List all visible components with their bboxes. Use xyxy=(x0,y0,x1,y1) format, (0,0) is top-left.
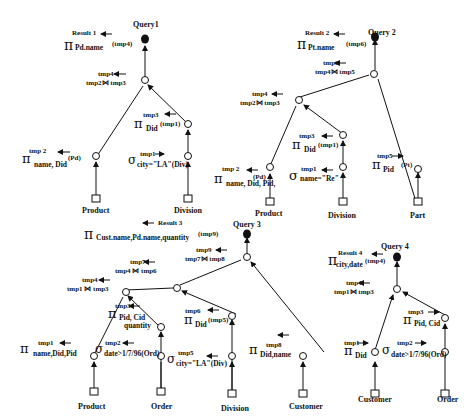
relation-product: Product xyxy=(78,403,105,411)
join-expression: tmp2⋈ tmp3 xyxy=(240,100,280,107)
proj-pid-cid-output: tmp3 xyxy=(115,303,131,310)
join-output: tmp4 xyxy=(252,91,268,98)
relation-order: Order xyxy=(151,403,172,411)
projection-icon: π xyxy=(372,158,381,171)
result-label: Result 3 xyxy=(158,220,182,227)
proj-pid-cid-attrs-2: quantity xyxy=(124,322,151,330)
join-top-expression: tmp7⋈ tmp8 xyxy=(185,256,225,263)
proj-name-output: tmp 2 xyxy=(29,148,46,155)
query-title: Query1 xyxy=(133,21,159,29)
proj-name-input: (Pd) xyxy=(253,174,266,181)
relation-product: Product xyxy=(82,207,109,215)
proj-did-attrs: Did xyxy=(195,321,207,329)
projection-input: (tmp6) xyxy=(346,41,366,48)
proj-pid-attrs: Pid xyxy=(383,166,394,174)
join-mid-expression: tmp4 ⋈ tmp6 xyxy=(115,268,157,275)
select-date-output: tmp2 xyxy=(397,340,413,347)
proj-did-attrs: Did xyxy=(355,352,367,360)
proj-name-attrs: name, Did, Pid, xyxy=(226,180,275,188)
projection-icon: π xyxy=(292,138,301,151)
select-predicate: name="Re" xyxy=(300,175,339,183)
relation-product: Product xyxy=(255,210,282,218)
relation-division: Division xyxy=(221,405,249,413)
proj-name-output: tmp1 xyxy=(38,340,54,347)
projection-attrs: Pd.name xyxy=(75,44,103,52)
join-expression: tmp2⋈ tmp3 xyxy=(86,80,126,87)
join-low-output: tmp4 xyxy=(82,277,98,284)
proj-cust-attrs: Did,name xyxy=(260,351,291,359)
proj-did-attrs: Did xyxy=(146,125,158,133)
proj-did-output: tmp3 xyxy=(143,112,159,119)
projection-icon: π xyxy=(108,307,117,320)
join-top-expression: tmp4⋈ tmp5 xyxy=(315,69,355,76)
relation-part: Part xyxy=(410,212,425,220)
selection-icon: σ xyxy=(382,344,390,356)
select-date-predicate: date>1/7/96(Ord) xyxy=(104,350,160,358)
proj-did-attrs: Did xyxy=(304,146,316,154)
select-date-output: tmp2 xyxy=(105,340,121,347)
select-city-output: tmp5 xyxy=(178,350,194,357)
result-label: Result 1 xyxy=(72,30,96,37)
select-predicate: city="LA"(Div) xyxy=(137,161,188,169)
relation-division: Division xyxy=(328,212,356,220)
proj-did-input: (tmp1) xyxy=(160,121,180,128)
proj-name-output: tmp 2 xyxy=(222,166,239,173)
query-title: Query 3 xyxy=(233,221,261,229)
join-top-output: tmp9 xyxy=(196,247,212,254)
proj-did-input: (tmp1) xyxy=(318,142,338,149)
query-title: Query 4 xyxy=(381,243,409,251)
projection-icon: π xyxy=(64,38,73,52)
result-label: Result 4 xyxy=(338,250,362,257)
projection-icon: π xyxy=(214,172,223,185)
projection-input: (tmp4) xyxy=(365,258,385,265)
projection-attrs: city,date xyxy=(336,261,363,269)
projection-icon: π xyxy=(403,313,412,326)
select-output: tmp1 xyxy=(140,151,156,158)
selection-icon: σ xyxy=(128,154,136,166)
join-mid-output: tmp7 xyxy=(130,259,146,266)
selection-icon: σ xyxy=(289,169,298,182)
select-output: tmp1 xyxy=(301,166,317,173)
join-output: tmp4 xyxy=(98,71,114,78)
relation-customer: Customer xyxy=(289,403,323,411)
select-date-predicate: date>1/7/96(Ord) xyxy=(391,351,447,359)
projection-icon: π xyxy=(134,117,143,130)
proj-name-attrs: name,Did,Pid xyxy=(33,350,77,358)
proj-name-attrs: name, Did xyxy=(34,161,67,169)
projection-icon: π xyxy=(297,37,306,51)
join-top-output: tmp6 xyxy=(323,60,339,67)
result-label: Result 2 xyxy=(305,30,329,37)
proj-pid-input: (Pt) xyxy=(401,162,412,169)
join-output: tmp4 xyxy=(346,280,362,287)
projection-icon: π xyxy=(84,227,93,241)
relation-division: Division xyxy=(174,207,202,215)
select-city-predicate: city="LA"(Div) xyxy=(176,360,227,368)
selection-icon: σ xyxy=(167,353,175,365)
projection-input: (tmp9) xyxy=(198,231,218,238)
projection-attrs: Pt.name xyxy=(308,44,334,52)
proj-cust-output: tmp8 xyxy=(266,342,282,349)
projection-icon: π xyxy=(20,342,29,355)
selection-icon: σ xyxy=(95,343,103,355)
projection-icon: π xyxy=(184,313,193,326)
projection-icon: π xyxy=(22,152,31,165)
projection-input: (tmp4) xyxy=(112,41,132,48)
proj-did-output: tmp3 xyxy=(299,133,315,140)
join-expression: tmp1⋈ tmp3 xyxy=(334,289,374,296)
query-title: Query 2 xyxy=(368,29,396,37)
relation-order: Order xyxy=(437,396,458,404)
projection-icon: π xyxy=(344,344,353,357)
proj-did-input: (tmp5) xyxy=(208,317,228,324)
relation-customer: Customer xyxy=(358,396,392,404)
proj-pid-cid-attrs: Pid, Cid xyxy=(414,320,440,328)
projection-attrs: Cust.name,Pd.name,quantity xyxy=(96,234,189,242)
proj-name-input: (Pd) xyxy=(68,155,81,162)
join-low-expression: tmp1 ⋈ tmp3 xyxy=(67,286,109,293)
projection-icon: π xyxy=(249,343,258,356)
